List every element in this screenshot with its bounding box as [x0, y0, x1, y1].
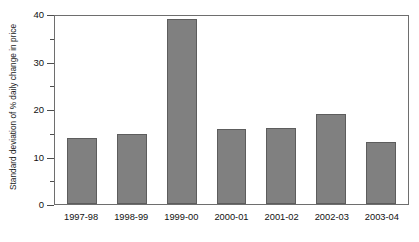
bar-1997-98 [67, 138, 97, 205]
x-tick-label: 2000-01 [206, 210, 256, 228]
bar-slot [356, 16, 406, 204]
bar-1999-00 [167, 19, 197, 204]
x-tick-label: 1999-00 [156, 210, 206, 228]
y-tick-major [47, 205, 54, 206]
plot-area [54, 15, 409, 205]
x-tick-label: 1997-98 [56, 210, 106, 228]
bar-slot [207, 16, 257, 204]
x-tick-label: 2003-04 [357, 210, 407, 228]
bar-1998-99 [117, 134, 147, 204]
bar-2003-04 [366, 142, 396, 204]
y-tick-label: 20 [33, 105, 44, 115]
y-tick-major [47, 158, 54, 159]
bar-slot [107, 16, 157, 204]
y-tick-label: 30 [33, 58, 44, 68]
bar-2000-01 [217, 129, 247, 204]
bar-2002-03 [316, 114, 346, 204]
y-axis: 010203040 [0, 0, 54, 242]
y-tick-major [47, 63, 54, 64]
bar-chart-figure: Standard deviation of % daily change in … [0, 0, 419, 242]
y-tick-label: 10 [33, 153, 44, 163]
y-tick-label: 40 [33, 10, 44, 20]
x-tick-label: 1998-99 [106, 210, 156, 228]
x-axis-tick-labels: 1997-981998-991999-002000-012001-022002-… [54, 210, 409, 228]
bar-slot [306, 16, 356, 204]
bar-slot [57, 16, 107, 204]
x-tick-label: 2002-03 [307, 210, 357, 228]
bar-series [55, 16, 408, 204]
x-tick-label: 2001-02 [257, 210, 307, 228]
y-tick-major [47, 110, 54, 111]
bar-slot [157, 16, 207, 204]
y-tick-major [47, 15, 54, 16]
bar-slot [256, 16, 306, 204]
bar-2001-02 [266, 128, 296, 204]
y-tick-label: 0 [39, 200, 44, 210]
